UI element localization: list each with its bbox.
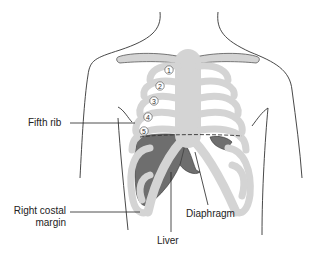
rib-number-3: 3 [152,98,156,105]
rib-number-2: 2 [158,83,162,90]
label-diaphragm: Diaphragm [186,208,235,220]
rib-number-1: 1 [167,67,171,74]
rib-number-5: 5 [142,128,146,135]
rib-number-4: 4 [146,114,150,121]
label-liver: Liver [157,235,179,247]
label-fifth-rib: Fifth rib [28,117,61,129]
label-right-costal-margin-line2: margin [8,217,66,229]
label-right-costal-margin-line1: Right costal [8,205,66,217]
